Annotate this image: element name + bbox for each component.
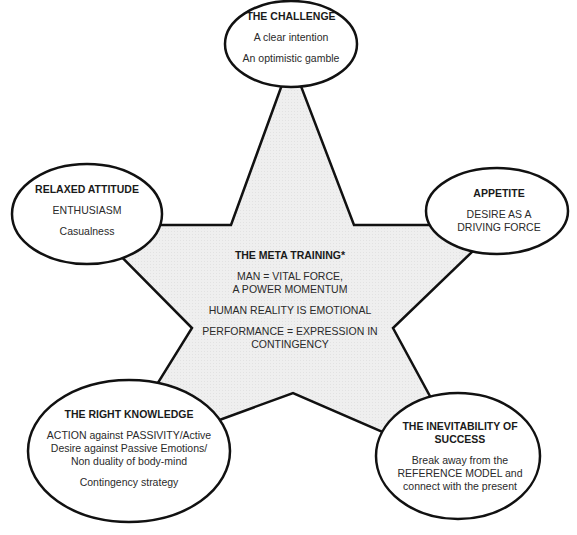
center-text: A POWER MOMENTUM: [190, 283, 390, 296]
node-text: DESIRE AS A: [440, 208, 558, 221]
node-text: A clear intention: [226, 31, 356, 44]
node-title: APPETITE: [440, 187, 558, 200]
node-text: ACTION against PASSIVITY/Active: [34, 429, 224, 442]
node-appetite: APPETITE DESIRE AS A DRIVING FORCE: [440, 187, 558, 234]
node-text: DRIVING FORCE: [440, 221, 558, 234]
node-text: Desire against Passive Emotions/: [34, 442, 224, 455]
node-title: THE RIGHT KNOWLEDGE: [34, 408, 224, 421]
node-text: An optimistic gamble: [226, 52, 356, 65]
center-text: MAN = VITAL FORCE,: [190, 270, 390, 283]
node-title: THE CHALLENGE: [226, 10, 356, 23]
node-the-challenge: THE CHALLENGE A clear intention An optim…: [226, 10, 356, 65]
center-text: CONTINGENCY: [190, 338, 390, 351]
center-text: HUMAN REALITY IS EMOTIONAL: [190, 304, 390, 317]
node-text: connect with the present: [385, 480, 535, 493]
node-title: SUCCESS: [385, 433, 535, 446]
node-text: Contingency strategy: [34, 476, 224, 489]
node-relaxed-attitude: RELAXED ATTITUDE ENTHUSIASM Casualness: [12, 183, 162, 238]
node-text: Non duality of body-mind: [34, 455, 224, 468]
node-the-inevitability-of-success: THE INEVITABILITY OF SUCCESS Break away …: [385, 420, 535, 493]
center-meta-training: THE META TRAINING* MAN = VITAL FORCE, A …: [190, 249, 390, 351]
node-title: THE INEVITABILITY OF: [385, 420, 535, 433]
node-the-right-knowledge: THE RIGHT KNOWLEDGE ACTION against PASSI…: [34, 408, 224, 489]
center-title: THE META TRAINING*: [190, 249, 390, 262]
node-text: ENTHUSIASM: [12, 204, 162, 217]
node-text: Break away from the: [385, 454, 535, 467]
node-text: Casualness: [12, 225, 162, 238]
node-title: RELAXED ATTITUDE: [12, 183, 162, 196]
node-text: REFERENCE MODEL and: [385, 467, 535, 480]
center-text: PERFORMANCE = EXPRESSION IN: [190, 325, 390, 338]
